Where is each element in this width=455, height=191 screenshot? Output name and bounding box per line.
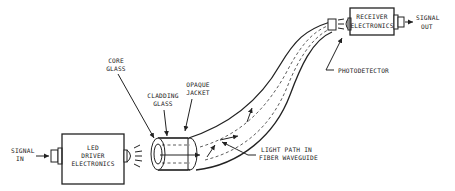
led-driver-box [62, 134, 124, 184]
svg-text:LIGHT PATH IN: LIGHT PATH IN [261, 146, 312, 153]
svg-text:ELECTRONICS: ELECTRONICS [71, 160, 114, 167]
svg-text:ELECTRONICS: ELECTRONICS [350, 22, 393, 29]
signal-out-label: SIGNAL OUT [416, 14, 440, 30]
led-emitter-icon [124, 145, 142, 167]
svg-text:IN: IN [16, 155, 24, 162]
svg-text:SIGNAL: SIGNAL [11, 147, 35, 154]
svg-text:SIGNAL: SIGNAL [416, 14, 440, 21]
svg-text:GLASS: GLASS [153, 100, 173, 107]
svg-text:GLASS: GLASS [106, 65, 126, 72]
svg-text:FIBER WAVEGUIDE: FIBER WAVEGUIDE [259, 154, 318, 161]
cladding-glass-label: CLADDING GLASS [147, 92, 178, 107]
svg-text:RECEIVER: RECEIVER [356, 13, 387, 20]
core-glass-leader [118, 74, 154, 138]
output-connector [394, 15, 404, 29]
svg-text:CLADDING: CLADDING [147, 92, 178, 99]
input-connector [51, 148, 62, 164]
fiber-end [151, 138, 197, 170]
light-path-label: LIGHT PATH IN FIBER WAVEGUIDE [259, 146, 318, 161]
signal-in-label: SIGNAL IN [11, 147, 35, 162]
svg-text:OPAQUE: OPAQUE [186, 81, 210, 88]
led-driver-label: LED DRIVER ELECTRONICS [71, 144, 114, 167]
svg-text:JACKET: JACKET [186, 89, 210, 96]
receiver-label: RECEIVER ELECTRONICS [350, 13, 393, 29]
cladding-glass-leader [164, 110, 167, 136]
svg-text:DRIVER: DRIVER [81, 152, 105, 159]
svg-text:LED: LED [87, 144, 99, 151]
photodetector-leader [326, 38, 342, 70]
svg-text:OUT: OUT [421, 23, 433, 30]
svg-text:CORE: CORE [108, 57, 124, 64]
opaque-jacket-leader [185, 99, 192, 131]
opaque-jacket-label: OPAQUE JACKET [186, 81, 210, 96]
core-glass-label: CORE GLASS [106, 57, 126, 72]
fiber-optic-diagram: SIGNAL IN LED DRIVER ELECTRONICS [0, 0, 455, 191]
svg-text:PHOTODETECTOR: PHOTODETECTOR [338, 67, 389, 74]
photodetector-label: PHOTODETECTOR [338, 67, 389, 74]
